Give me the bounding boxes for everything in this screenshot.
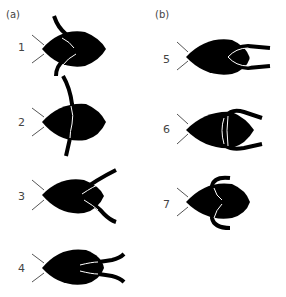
larva-figure-1 <box>32 16 106 76</box>
larva-figure-7 <box>177 178 250 228</box>
larva-figure-6 <box>177 111 262 149</box>
larvae-diagram <box>0 0 286 297</box>
larva-figure-2 <box>32 76 106 156</box>
larva-figure-3 <box>32 170 116 222</box>
larva-figure-4 <box>32 249 124 284</box>
larva-figure-5 <box>177 39 270 74</box>
